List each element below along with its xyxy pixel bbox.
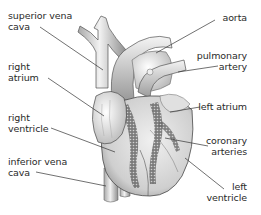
label-pulmonary-artery: pulmonary artery xyxy=(197,50,247,72)
label-coronary-arteries: coronary arteries xyxy=(206,135,247,157)
label-inferior-vena-cava: inferior vena cava xyxy=(8,156,67,178)
heart-diagram: superior vena cava right atrium right ve… xyxy=(0,0,261,215)
label-superior-vena-cava: superior vena cava xyxy=(8,10,72,32)
label-right-ventricle: right ventricle xyxy=(8,112,49,134)
label-right-atrium: right atrium xyxy=(8,61,39,83)
label-aorta: aorta xyxy=(222,12,247,23)
label-left-ventricle: left ventricle xyxy=(206,181,247,203)
label-left-atrium: left atrium xyxy=(198,101,247,112)
leader-superior-vena-cava xyxy=(40,27,103,70)
